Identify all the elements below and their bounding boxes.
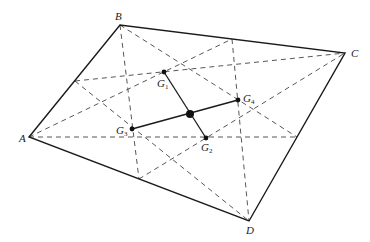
label-G4: G4	[243, 92, 255, 106]
medians	[29, 25, 345, 221]
median-mid-BC-to-D	[232, 39, 249, 221]
median-mid-AD-to-C	[139, 53, 345, 179]
label-G3: G3	[116, 124, 128, 138]
quadrilateral-ABCD	[29, 25, 345, 221]
point-G2	[204, 136, 209, 141]
center-point	[186, 110, 194, 118]
label-A: A	[18, 132, 26, 144]
label-D: D	[245, 224, 254, 236]
label-C: C	[351, 47, 359, 59]
label-G2: G2	[201, 141, 213, 155]
median-A-to-mid-BC	[29, 39, 232, 137]
point-G3	[130, 127, 135, 132]
quadrilateral-centroid-diagram: A B C D G1 G2 G3 G4	[0, 0, 370, 242]
segment-G1-G2	[164, 72, 206, 138]
point-G1	[162, 70, 167, 75]
label-G1: G1	[157, 77, 169, 91]
median-mid-AB-to-D	[75, 81, 249, 221]
median-B-to-mid-CD	[120, 25, 297, 137]
median-mid-AB-to-C	[75, 53, 345, 81]
label-B: B	[115, 10, 122, 22]
median-B-to-mid-AD	[120, 25, 139, 179]
point-G4	[236, 98, 241, 103]
